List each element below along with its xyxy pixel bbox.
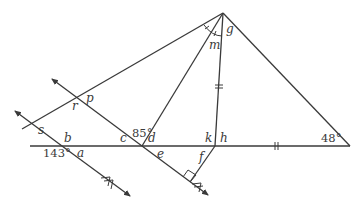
parallel-line-1-lower (62, 146, 130, 196)
label-p: p (86, 91, 94, 105)
label-h: h (220, 131, 228, 145)
label-m: m (209, 38, 220, 52)
label-a: a (77, 146, 84, 160)
segment-g-to-h (215, 13, 223, 146)
label-g: g (226, 22, 234, 36)
label-angle-85: 85° (132, 126, 152, 140)
label-e: e (157, 147, 164, 161)
triangle-left-side (22, 13, 223, 129)
label-r: r (72, 99, 79, 113)
label-b: b (64, 131, 72, 145)
label-c: c (120, 131, 127, 145)
label-angle-143: 143° (43, 146, 71, 160)
segment-g-to-d (142, 13, 223, 146)
label-k: k (205, 131, 212, 145)
geometry-diagram: g m p r s b a c d e k h f 85° 143° 48° (0, 0, 363, 208)
label-s: s (38, 123, 44, 137)
label-f: f (198, 150, 206, 164)
triangle-right-side (223, 13, 350, 146)
label-angle-48: 48° (321, 131, 341, 145)
